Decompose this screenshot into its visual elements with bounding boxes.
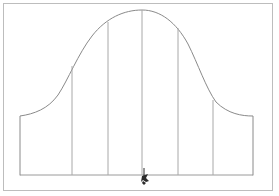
bell-curve-path [20,10,253,175]
figure-canvas [0,0,279,196]
bell-curve-diagram [0,0,279,196]
